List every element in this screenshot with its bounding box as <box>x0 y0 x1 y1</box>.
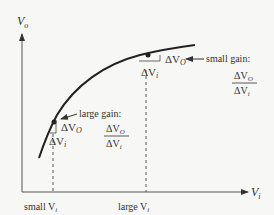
lower-delta-vi: ΔVi <box>49 135 66 149</box>
small-gain-label: small gain: <box>206 53 250 64</box>
upper-delta-vo: ΔVO <box>165 53 186 67</box>
small-gain-frac-den: ΔVi <box>234 85 250 98</box>
lower-delta-vo: ΔVO <box>61 121 82 135</box>
transfer-curve-diagram: Vo Vi ΔVO ΔVi small gain: ΔVO ΔVi large … <box>0 0 274 215</box>
upper-operating-point <box>146 53 151 58</box>
x-axis-label: Vi <box>251 185 261 201</box>
large-vi-label: large Vi <box>118 201 149 214</box>
large-gain-arrow <box>61 114 77 119</box>
small-vi-label: small Vi <box>24 201 57 214</box>
large-gain-frac-den: ΔVi <box>106 138 122 151</box>
y-axis-label: Vo <box>17 14 28 30</box>
upper-delta-vi: ΔVi <box>141 66 158 80</box>
large-gain-label: large gain: <box>79 108 121 119</box>
small-gain-frac-num: ΔVO <box>234 70 253 83</box>
large-gain-frac-num: ΔVO <box>106 123 125 136</box>
